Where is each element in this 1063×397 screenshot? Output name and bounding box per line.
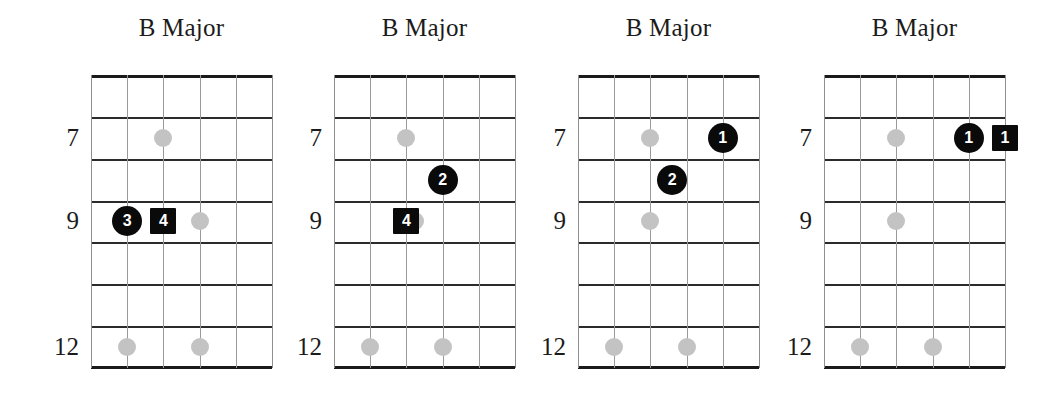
fret-line-1 (824, 117, 1005, 119)
ghost-dot (887, 212, 905, 230)
finger-marker-1[interactable]: 1 (992, 125, 1018, 151)
string-line-1 (824, 75, 825, 368)
ghost-dot (887, 129, 905, 147)
fret-line-5 (824, 284, 1005, 286)
fret-line-6 (824, 326, 1005, 328)
fret-number-label: 7 (800, 124, 813, 152)
chord-diagram-4: B Major117912 (0, 0, 1063, 397)
string-line-6 (1005, 75, 1006, 368)
chord-chart-sheet: B Major347912B Major247912B Major127912B… (0, 0, 1063, 397)
finger-marker-1[interactable]: 1 (954, 123, 984, 153)
fret-line-3 (824, 201, 1005, 203)
string-line-5 (969, 75, 970, 368)
fretboard-grid: 11 (824, 75, 1005, 368)
fret-line-7 (824, 366, 1005, 369)
fret-number-label: 9 (800, 207, 813, 235)
fret-line-2 (824, 159, 1005, 161)
ghost-dot (924, 338, 942, 356)
fret-line-4 (824, 242, 1005, 244)
chord-title: B Major (764, 14, 1063, 42)
fret-number-label: 12 (787, 333, 812, 361)
string-line-2 (860, 75, 861, 368)
fret-line-0 (824, 75, 1005, 78)
string-line-4 (933, 75, 934, 368)
ghost-dot (851, 338, 869, 356)
